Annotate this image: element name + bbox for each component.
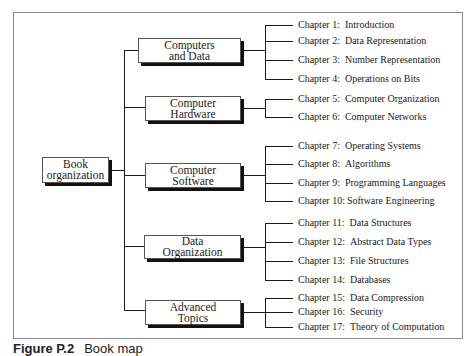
category-advanced-topics: Advanced Topics bbox=[145, 300, 241, 325]
cat2-bracket bbox=[265, 99, 266, 118]
branch-cat-5 bbox=[124, 310, 145, 311]
chapter-10: Chapter 10:Software Engineering bbox=[298, 195, 434, 207]
tick-ch8 bbox=[265, 164, 293, 165]
cat1-connector bbox=[244, 50, 265, 51]
chapter-17: Chapter 17:Theory of Computation bbox=[298, 321, 444, 333]
figure-caption-text: Book map bbox=[84, 341, 143, 356]
root-node-book-organization: Book organization bbox=[42, 157, 109, 183]
chapter-title: Programming Languages bbox=[345, 177, 446, 188]
chapter-number: Chapter 15: bbox=[298, 292, 345, 304]
chapter-16: Chapter 16:Security bbox=[298, 306, 383, 318]
connector-root-trunk bbox=[110, 170, 125, 171]
tick-ch7 bbox=[265, 146, 293, 147]
tick-ch4 bbox=[265, 79, 293, 80]
chapter-title: Theory of Computation bbox=[350, 321, 444, 332]
tick-ch9 bbox=[265, 183, 293, 184]
chapter-title: Security bbox=[350, 306, 383, 317]
category-computer-hardware: Computer Hardware bbox=[145, 96, 241, 121]
chapter-title: Databases bbox=[350, 274, 391, 285]
category-computer-software: Computer Software bbox=[145, 163, 241, 188]
tick-ch16 bbox=[265, 312, 293, 313]
tick-ch11 bbox=[265, 223, 293, 224]
chapter-title: Algorithms bbox=[345, 158, 391, 169]
chapter-number: Chapter 6: bbox=[298, 111, 340, 123]
chapter-number: Chapter 12: bbox=[298, 236, 345, 248]
tick-ch17 bbox=[265, 327, 293, 328]
trunk-line bbox=[124, 50, 125, 311]
chapter-7: Chapter 7:Operating Systems bbox=[298, 140, 421, 152]
chapter-title: Data Representation bbox=[345, 35, 426, 46]
cat4-connector bbox=[244, 247, 265, 248]
branch-cat-1 bbox=[124, 50, 139, 51]
chapter-title: File Structures bbox=[350, 255, 409, 266]
figure-label: Figure P.2 bbox=[13, 341, 74, 356]
chapter-number: Chapter 13: bbox=[298, 255, 345, 267]
chapter-title: Abstract Data Types bbox=[350, 236, 431, 247]
chapter-13: Chapter 13:File Structures bbox=[298, 255, 409, 267]
branch-cat-2 bbox=[124, 107, 145, 108]
chapter-number: Chapter 7: bbox=[298, 140, 340, 152]
chapter-title: Software Engineering bbox=[347, 195, 434, 206]
cat1-bracket bbox=[265, 25, 266, 80]
chapter-title: Operations on Bits bbox=[345, 73, 420, 84]
cat3-bracket bbox=[265, 146, 266, 202]
tick-ch3 bbox=[265, 60, 293, 61]
chapter-title: Computer Organization bbox=[345, 93, 440, 104]
tick-ch13 bbox=[265, 261, 293, 262]
chapter-title: Data Structures bbox=[350, 217, 412, 228]
category-computers-and-data: Computers and Data bbox=[138, 38, 241, 63]
chapter-14: Chapter 14:Databases bbox=[298, 274, 390, 286]
chapter-15: Chapter 15:Data Compression bbox=[298, 292, 424, 304]
chapter-title: Operating Systems bbox=[345, 140, 421, 151]
chapter-12: Chapter 12:Abstract Data Types bbox=[298, 236, 431, 248]
cat2-connector bbox=[244, 108, 265, 109]
chapter-title: Introduction bbox=[345, 19, 394, 30]
chapter-8: Chapter 8:Algorithms bbox=[298, 158, 391, 170]
branch-cat-3 bbox=[124, 175, 145, 176]
chapter-2: Chapter 2:Data Representation bbox=[298, 35, 426, 47]
chapter-number: Chapter 2: bbox=[298, 35, 340, 47]
tick-ch12 bbox=[265, 242, 293, 243]
chapter-title: Computer Networks bbox=[345, 111, 426, 122]
cat5-connector bbox=[244, 312, 265, 313]
chapter-number: Chapter 9: bbox=[298, 177, 340, 189]
tick-ch1 bbox=[265, 25, 293, 26]
tick-ch15 bbox=[265, 298, 293, 299]
chapter-number: Chapter 10: bbox=[298, 195, 345, 207]
chapter-number: Chapter 11: bbox=[298, 217, 345, 229]
chapter-5: Chapter 5:Computer Organization bbox=[298, 93, 439, 105]
chapter-1: Chapter 1:Introduction bbox=[298, 19, 394, 31]
chapter-3: Chapter 3:Number Representation bbox=[298, 54, 440, 66]
chapter-number: Chapter 8: bbox=[298, 158, 340, 170]
tick-ch6 bbox=[265, 117, 293, 118]
chapter-number: Chapter 17: bbox=[298, 321, 345, 333]
chapter-6: Chapter 6:Computer Networks bbox=[298, 111, 426, 123]
chapter-number: Chapter 5: bbox=[298, 93, 340, 105]
cat4-bracket bbox=[265, 223, 266, 281]
tick-ch5 bbox=[265, 99, 293, 100]
tick-ch14 bbox=[265, 280, 293, 281]
category-data-organization: Data Organization bbox=[144, 235, 241, 259]
cat3-connector bbox=[244, 175, 265, 176]
chapter-11: Chapter 11:Data Structures bbox=[298, 217, 412, 229]
figure-caption: Figure P.2Book map bbox=[13, 341, 143, 356]
chapter-9: Chapter 9:Programming Languages bbox=[298, 177, 446, 189]
chapter-number: Chapter 4: bbox=[298, 73, 340, 85]
chapter-number: Chapter 1: bbox=[298, 19, 340, 31]
chapter-title: Data Compression bbox=[350, 292, 424, 303]
chapter-number: Chapter 16: bbox=[298, 306, 345, 318]
branch-cat-4 bbox=[124, 246, 144, 247]
cat5-bracket bbox=[265, 298, 266, 328]
tick-ch10 bbox=[265, 201, 293, 202]
chapter-title: Number Representation bbox=[345, 54, 440, 65]
chapter-number: Chapter 3: bbox=[298, 54, 340, 66]
tick-ch2 bbox=[265, 41, 293, 42]
chapter-4: Chapter 4:Operations on Bits bbox=[298, 73, 420, 85]
chapter-number: Chapter 14: bbox=[298, 274, 345, 286]
